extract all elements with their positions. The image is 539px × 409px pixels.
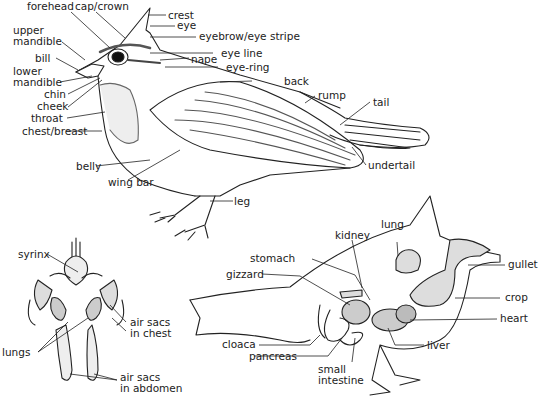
label-air-sacs-abdomen-line2: in abdomen [120, 383, 182, 394]
label-upper-mandible-line2: mandible [13, 36, 62, 47]
label-rump: rump [318, 90, 346, 101]
label-lungs: lungs [2, 347, 30, 358]
label-kidney: kidney [335, 230, 370, 241]
label-eyebrow-eye-stripe: eyebrow/eye stripe [199, 31, 300, 42]
label-wing-bar: wing bar [108, 177, 154, 188]
label-small-intestine-line2: intestine [318, 375, 364, 386]
leader-lines [38, 12, 505, 380]
label-air-sacs-chest-line2: in chest [130, 328, 171, 339]
label-back: back [284, 76, 309, 87]
label-lower-mandible-line2: mandible [13, 77, 62, 88]
bird-anatomy-illustration [0, 0, 539, 409]
label-bill: bill [35, 53, 50, 64]
label-crop: crop [505, 292, 528, 303]
label-stomach: stomach [250, 253, 295, 264]
label-undertail: undertail [368, 160, 415, 171]
label-leg: leg [234, 196, 250, 207]
label-cheek: cheek [37, 101, 68, 112]
label-throat: throat [31, 113, 63, 124]
label-belly: belly [76, 161, 101, 172]
label-eye-ring: eye-ring [226, 62, 269, 73]
label-heart: heart [500, 313, 528, 324]
label-eye-line: eye line [221, 48, 262, 59]
label-syrinx: syrinx [18, 249, 50, 260]
label-cloaca: cloaca [222, 339, 256, 350]
external-bird-drawing [76, 8, 429, 240]
label-chin: chin [44, 89, 66, 100]
label-forehead: forehead [27, 1, 74, 12]
label-eye: eye [177, 20, 196, 31]
label-liver: liver [427, 340, 450, 351]
label-cap-crown: cap/crown [75, 1, 129, 12]
label-lung: lung [381, 219, 404, 230]
label-tail: tail [373, 97, 389, 108]
label-chest-breast: chest/breast [22, 126, 87, 137]
label-gullet: gullet [508, 259, 538, 270]
label-nape: nape [191, 54, 217, 65]
label-pancreas: pancreas [249, 351, 297, 362]
label-gizzard: gizzard [226, 269, 264, 280]
